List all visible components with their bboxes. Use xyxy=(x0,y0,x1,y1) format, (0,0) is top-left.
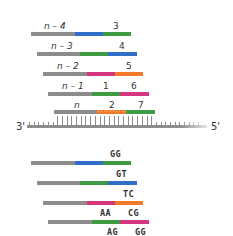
primer-segment-gray xyxy=(37,181,80,185)
five-prime-label: 5' xyxy=(211,122,220,132)
cycle-label: 4 xyxy=(119,42,125,51)
base-pair-tick xyxy=(156,122,157,125)
base-segment-blue xyxy=(75,32,103,36)
three-prime-label: 3' xyxy=(16,122,25,132)
base-pair-tick xyxy=(71,116,72,125)
base-pair-tick xyxy=(147,116,148,125)
base-pair-tick xyxy=(67,116,68,125)
primer-segment-gray xyxy=(37,52,80,56)
base-pair-tick xyxy=(189,122,190,125)
primer-segment-gray xyxy=(31,32,75,36)
base-pair-tick xyxy=(34,122,35,125)
base-segment-blue xyxy=(108,52,137,56)
base-segment-orange xyxy=(115,72,143,76)
dinucleotide-label: CG xyxy=(128,209,139,218)
primer-segment-gray xyxy=(54,110,97,114)
base-pair-tick xyxy=(48,122,49,125)
base-segment-green xyxy=(80,181,108,185)
base-pair-tick xyxy=(29,122,30,125)
base-pair-tick xyxy=(104,116,105,125)
base-pair-tick xyxy=(165,122,166,125)
base-segment-blue xyxy=(75,161,103,165)
base-pair-tick xyxy=(184,122,185,125)
base-pair-tick xyxy=(81,116,82,125)
base-pair-tick xyxy=(57,116,58,125)
primer-label: n – 2 xyxy=(57,62,79,71)
base-pair-tick xyxy=(142,116,143,125)
primer-segment-gray xyxy=(48,92,92,96)
base-segment-pink xyxy=(120,92,149,96)
base-pair-tick xyxy=(62,116,63,125)
base-pair-tick xyxy=(179,122,180,125)
base-pair-tick xyxy=(118,116,119,125)
base-segment-green xyxy=(126,110,155,114)
base-segment-green xyxy=(92,92,120,96)
base-pair-tick xyxy=(114,116,115,125)
primer-segment-gray xyxy=(43,72,87,76)
primer-label: n – 4 xyxy=(44,22,66,31)
primer-segment-gray xyxy=(48,220,92,224)
cycle-label: 2 xyxy=(109,101,115,110)
base-pair-tick xyxy=(128,116,129,125)
base-segment-pink xyxy=(120,220,149,224)
base-pair-tick xyxy=(100,116,101,125)
dinucleotide-label: GG xyxy=(135,228,146,236)
dinucleotide-label: AG xyxy=(107,228,118,236)
base-pair-tick xyxy=(95,116,96,125)
base-pair-tick xyxy=(90,116,91,125)
base-pair-tick xyxy=(198,122,199,125)
base-pair-tick xyxy=(85,116,86,125)
cycle-label: 1 xyxy=(103,82,109,91)
cycle-label: 7 xyxy=(138,101,144,110)
primer-label: n – 3 xyxy=(51,42,73,51)
base-segment-orange xyxy=(97,110,126,114)
base-segment-orange xyxy=(115,201,143,205)
base-pair-tick xyxy=(43,122,44,125)
base-pair-tick xyxy=(123,116,124,125)
base-pair-tick xyxy=(76,116,77,125)
template-backbone xyxy=(27,125,207,128)
cycle-label: 3 xyxy=(113,22,119,31)
dinucleotide-label: TC xyxy=(123,190,134,199)
primer-label: n xyxy=(74,101,80,110)
primer-segment-gray xyxy=(43,201,87,205)
base-segment-green xyxy=(103,161,131,165)
base-pair-tick xyxy=(175,122,176,125)
dinucleotide-label: GG xyxy=(110,150,121,159)
base-segment-pink xyxy=(87,201,115,205)
base-segment-green xyxy=(92,220,120,224)
base-pair-tick xyxy=(53,122,54,125)
primer-segment-gray xyxy=(31,161,75,165)
base-segment-blue xyxy=(108,181,137,185)
base-segment-pink xyxy=(87,72,115,76)
cycle-label: 6 xyxy=(131,82,137,91)
base-pair-tick xyxy=(151,116,152,125)
cycle-label: 5 xyxy=(126,62,132,71)
base-pair-tick xyxy=(193,122,194,125)
base-pair-tick xyxy=(170,122,171,125)
base-pair-tick xyxy=(38,122,39,125)
base-pair-tick xyxy=(137,116,138,125)
primer-label: n – 1 xyxy=(62,82,84,91)
dinucleotide-label: AA xyxy=(100,209,111,218)
base-pair-tick xyxy=(161,122,162,125)
base-pair-tick xyxy=(132,116,133,125)
dinucleotide-label: GT xyxy=(116,170,127,179)
base-pair-tick xyxy=(109,116,110,125)
base-segment-green xyxy=(103,32,131,36)
base-segment-green xyxy=(80,52,108,56)
